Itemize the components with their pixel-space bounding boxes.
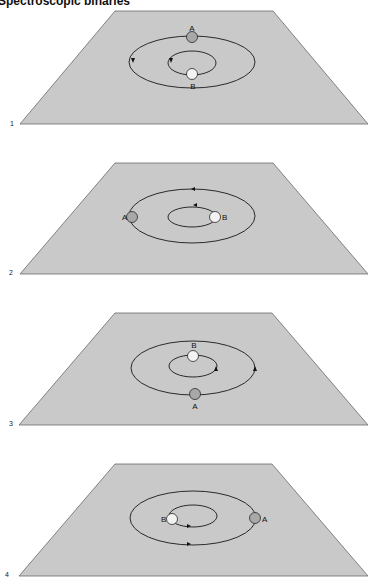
star-a-label: A <box>189 24 195 33</box>
panel-number: 3 <box>9 420 13 427</box>
panel-4: B A 4 <box>0 440 369 581</box>
star-a <box>127 212 138 223</box>
star-a <box>187 32 198 43</box>
star-a <box>250 513 261 524</box>
panel-3: B A 3 <box>0 290 369 440</box>
star-a-label: A <box>122 213 128 222</box>
panel-number: 2 <box>9 269 13 276</box>
panel-number: 1 <box>10 120 14 127</box>
star-b-label: B <box>161 515 166 524</box>
panel-number: 4 <box>5 571 9 578</box>
star-b-label: B <box>190 82 195 91</box>
star-b <box>210 212 221 223</box>
star-b <box>188 351 199 362</box>
orbital-plane <box>20 163 368 274</box>
star-b <box>167 514 178 525</box>
star-b-label: B <box>191 341 196 350</box>
star-b-label: B <box>222 213 227 222</box>
star-a-label: A <box>262 515 268 524</box>
panel-2: A B 2 <box>0 140 369 290</box>
star-b <box>187 69 198 80</box>
panel-1: A B 1 <box>0 0 369 150</box>
star-a <box>190 389 201 400</box>
orbital-plane <box>19 464 368 576</box>
star-a-label: A <box>192 402 198 411</box>
